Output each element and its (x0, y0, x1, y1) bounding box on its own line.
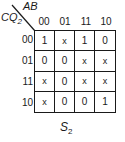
kmap-cell: x (35, 72, 55, 92)
kmap-cell: x (75, 51, 95, 71)
kmap-cell: 0 (75, 92, 95, 112)
kmap-cell: 0 (55, 92, 75, 112)
kmap-cell: x (35, 92, 55, 112)
column-header: 11 (76, 16, 96, 27)
kmap-cell: 0 (55, 72, 75, 92)
row-header: 01 (14, 55, 33, 66)
kmap-cell: x (95, 72, 115, 92)
kmap-cell: 1 (75, 31, 95, 51)
kmap-cell: 1 (35, 31, 55, 51)
kmap-cell: 0 (35, 51, 55, 71)
column-header: 01 (55, 16, 75, 27)
kmap-cell: x (95, 51, 115, 71)
map-caption: S2 (60, 120, 72, 136)
row-header: 10 (14, 97, 33, 108)
column-header: 10 (96, 16, 116, 27)
column-variables-label: AB (23, 0, 38, 12)
kmap-cell: x (55, 31, 75, 51)
kmap-cell: 1 (95, 92, 115, 112)
row-variables-label: CQ2 (1, 11, 22, 26)
kmap-cell: x (75, 72, 95, 92)
kmap-cell: 0 (55, 51, 75, 71)
column-header: 00 (34, 16, 54, 27)
karnaugh-map-grid: 1 x 1 0 0 0 x x x 0 x x x 0 0 1 (34, 30, 116, 113)
row-header: 11 (14, 76, 33, 87)
kmap-cell: 0 (95, 31, 115, 51)
row-header: 00 (14, 34, 33, 45)
